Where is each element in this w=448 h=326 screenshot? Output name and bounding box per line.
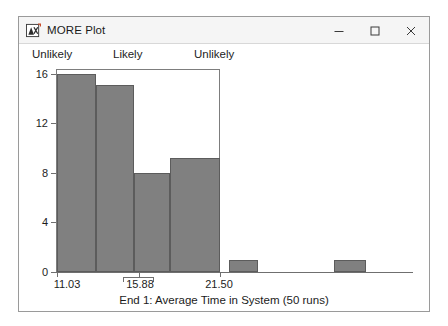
y-tick-0: [51, 272, 56, 273]
x-tick-21-50: [220, 273, 221, 277]
y-axis-label-0: 0: [42, 266, 48, 278]
x-axis-label-1: 15.88: [126, 278, 154, 290]
minimize-icon[interactable]: [321, 17, 357, 44]
histogram-bar: [229, 260, 258, 272]
region-labels-row: Unlikely Likely Unlikely: [19, 44, 429, 66]
maximize-icon[interactable]: [357, 17, 393, 44]
region-label-left: Unlikely: [32, 48, 72, 60]
y-axis-label-4: 4: [42, 216, 48, 228]
x-tick-11-03: [57, 273, 58, 277]
x-axis-baseline: [56, 272, 413, 273]
histogram-plot: 16 12 8 4 0 11.03 15.88 21.50 End 1: Ave…: [19, 66, 429, 311]
histogram-bar: [334, 260, 366, 272]
y-tick-16: [51, 74, 56, 75]
y-tick-8: [51, 173, 56, 174]
histogram-bar: [134, 173, 170, 272]
more-plot-icon: [26, 23, 41, 38]
y-axis-label-12: 12: [36, 117, 48, 129]
chart-caption: End 1: Average Time in System (50 runs): [19, 294, 429, 306]
close-icon[interactable]: [393, 17, 429, 44]
more-plot-window: MORE Plot: [18, 16, 430, 312]
y-axis-label-8: 8: [42, 167, 48, 179]
histogram-bar: [170, 158, 220, 272]
y-tick-4: [51, 222, 56, 223]
histogram-bar: [57, 74, 96, 272]
histogram-bar: [96, 85, 134, 272]
y-tick-12: [51, 123, 56, 124]
screenshot-root: MORE Plot: [0, 0, 448, 326]
window-controls: [321, 17, 429, 44]
x-axis-label-0: 11.03: [54, 278, 81, 290]
region-label-center: Likely: [113, 48, 142, 60]
window-titlebar[interactable]: MORE Plot: [19, 17, 429, 44]
region-label-right: Unlikely: [194, 48, 234, 60]
window-title: MORE Plot: [47, 24, 105, 36]
y-axis-label-16: 16: [36, 68, 48, 80]
x-axis-label-2: 21.50: [205, 278, 233, 290]
